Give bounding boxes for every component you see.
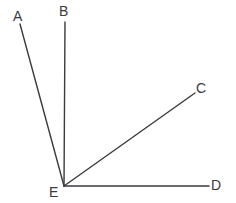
point-label-c: C <box>196 81 206 95</box>
ray-eb <box>64 22 65 186</box>
ray-ea <box>20 24 64 186</box>
point-label-b: B <box>59 4 68 18</box>
geometry-figure: A B C D E <box>0 0 236 203</box>
figure-canvas <box>0 0 236 203</box>
point-label-e: E <box>49 185 58 199</box>
point-label-d: D <box>211 178 221 192</box>
ray-ec <box>64 93 195 186</box>
point-label-a: A <box>13 9 22 23</box>
